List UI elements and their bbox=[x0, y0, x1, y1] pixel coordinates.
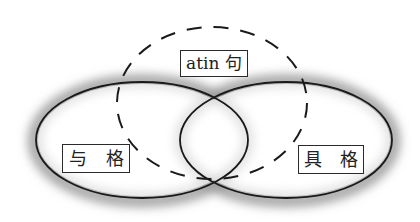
label-atin-sentence: atin 句 bbox=[180, 50, 248, 77]
label-instrumental-char-2: 格 bbox=[340, 151, 358, 169]
label-atin-sentence-text: atin 句 bbox=[186, 55, 242, 72]
venn-diagram bbox=[0, 0, 420, 222]
label-dative-char-2: 格 bbox=[106, 150, 124, 168]
label-dative-char-1: 与 bbox=[69, 150, 87, 168]
label-instrumental-char-1: 具 bbox=[304, 151, 322, 169]
label-instrumental-case: 具 格 bbox=[298, 145, 364, 174]
label-dative-case: 与 格 bbox=[62, 144, 130, 173]
